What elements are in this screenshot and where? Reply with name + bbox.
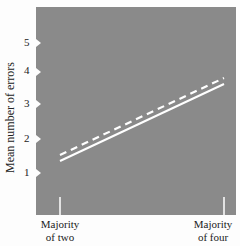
plot-area bbox=[36, 7, 236, 215]
x-label-majority-two: Majority of two bbox=[30, 218, 90, 244]
ytick-5: 5 bbox=[24, 36, 30, 48]
x-label-majority-four: Majority of four bbox=[186, 218, 240, 244]
ytick-2: 2 bbox=[24, 132, 30, 144]
tick-notches bbox=[36, 39, 41, 177]
x-label-four-line2: of four bbox=[186, 231, 240, 244]
y-axis-label: Mean number of errors bbox=[3, 38, 18, 198]
ytick-1: 1 bbox=[24, 166, 30, 178]
line-chart bbox=[36, 7, 236, 215]
series-dashed-line bbox=[60, 78, 224, 155]
x-label-two-line1: Majority bbox=[30, 218, 90, 231]
series-solid-line bbox=[60, 84, 224, 161]
x-label-two-line2: of two bbox=[30, 231, 90, 244]
ytick-3: 3 bbox=[24, 97, 30, 109]
x-label-four-line1: Majority bbox=[186, 218, 240, 231]
ytick-4: 4 bbox=[24, 64, 30, 76]
